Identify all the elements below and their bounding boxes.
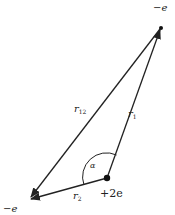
nucleus-dot xyxy=(104,175,110,181)
label-r2: r2 xyxy=(73,190,82,202)
label-electron-top: −e xyxy=(153,2,167,13)
label-nucleus: +2e xyxy=(100,187,123,200)
label-r1: r1 xyxy=(128,108,137,120)
vector-r12 xyxy=(31,29,160,197)
vector-r1 xyxy=(107,30,160,178)
label-r12: r12 xyxy=(74,103,87,115)
diagram-canvas: −e −e +2e r1 r2 r12 α xyxy=(0,0,175,215)
label-electron-left: −e xyxy=(3,203,17,214)
label-alpha: α xyxy=(90,161,96,170)
electron-top-dot xyxy=(159,26,163,30)
